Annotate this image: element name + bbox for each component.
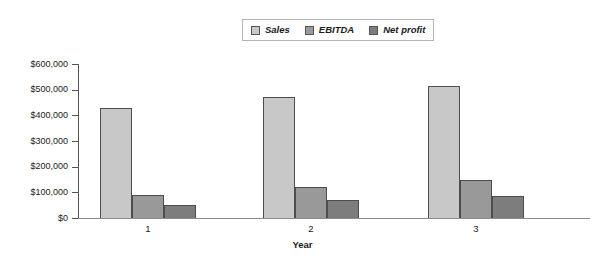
x-axis-title: Year: [0, 240, 605, 250]
legend-swatch-icon: [305, 26, 314, 35]
legend-entry[interactable]: Sales: [251, 25, 290, 35]
y-axis-tick: [72, 141, 78, 142]
bar[interactable]: [263, 97, 295, 218]
bar[interactable]: [327, 200, 359, 218]
y-axis-tick-label: $100,000: [2, 188, 68, 197]
y-axis-tick: [72, 167, 78, 168]
bar-group: [263, 64, 359, 218]
y-axis-tick-label: $300,000: [2, 137, 68, 146]
bar[interactable]: [492, 196, 524, 218]
legend-entry[interactable]: EBITDA: [305, 25, 354, 35]
legend-label: EBITDA: [319, 25, 354, 35]
bar[interactable]: [132, 195, 164, 218]
legend-label: Sales: [265, 25, 290, 35]
x-axis-tick-label: 3: [446, 224, 506, 234]
y-axis-tick: [72, 192, 78, 193]
bar[interactable]: [428, 86, 460, 218]
y-axis-tick-label: $0: [2, 214, 68, 223]
bar[interactable]: [164, 205, 196, 218]
legend-swatch-icon: [369, 26, 378, 35]
x-axis-tick-label: 2: [281, 224, 341, 234]
bar[interactable]: [295, 187, 327, 218]
bar[interactable]: [100, 108, 132, 218]
y-axis-tick-label: $400,000: [2, 111, 68, 120]
legend-entry[interactable]: Net profit: [369, 25, 425, 35]
y-axis-tick: [72, 64, 78, 65]
plot-area: [78, 64, 590, 218]
x-axis-line: [78, 218, 590, 219]
bar[interactable]: [460, 180, 492, 218]
y-axis-tick: [72, 115, 78, 116]
chart-legend: SalesEBITDANet profit: [242, 19, 434, 41]
y-axis-tick-label: $600,000: [2, 60, 68, 69]
y-axis-labels: $0$100,000$200,000$300,000$400,000$500,0…: [0, 0, 68, 266]
y-axis-tick-label: $500,000: [2, 85, 68, 94]
legend-label: Net profit: [383, 25, 425, 35]
bar-chart: SalesEBITDANet profit $0$100,000$200,000…: [0, 0, 605, 266]
y-axis-tick: [72, 90, 78, 91]
legend-swatch-icon: [251, 26, 260, 35]
y-axis-tick-label: $200,000: [2, 162, 68, 171]
bar-group: [428, 64, 524, 218]
y-axis-tick: [72, 218, 78, 219]
x-axis-tick-label: 1: [118, 224, 178, 234]
bar-group: [100, 64, 196, 218]
